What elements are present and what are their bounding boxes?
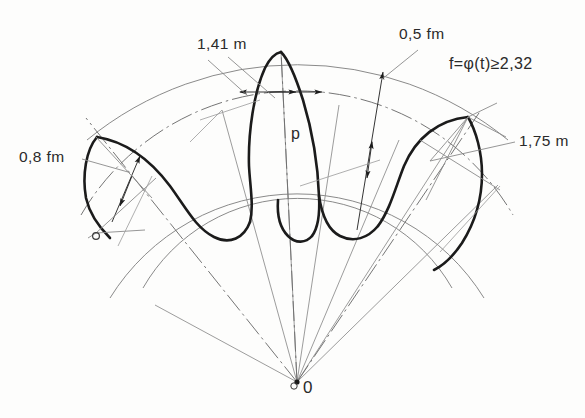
leader-root-relief xyxy=(82,137,156,238)
label-tip-relief: 0,5 fm xyxy=(399,25,444,43)
centre-point-ring xyxy=(291,383,297,389)
label-centre: 0 xyxy=(303,378,313,398)
label-contact-ratio-formula: f=φ(t)≥2,32 xyxy=(449,55,533,73)
radial-lines xyxy=(155,52,498,382)
leader-tooth-thickness-2 xyxy=(208,60,248,96)
drawing-canvas: 1,41 m 0,5 fm 0,8 fm 1,75 m f=φ(t)≥2,32 … xyxy=(0,0,585,418)
right-tooth-centreline xyxy=(297,110,481,382)
dim-root-relief xyxy=(112,156,140,222)
centre-point xyxy=(294,379,299,384)
second-root-bottom xyxy=(319,196,378,239)
leader-tooth-height xyxy=(420,103,515,200)
label-root-relief: 0,8 fm xyxy=(19,148,64,166)
second-root-fillet xyxy=(278,200,312,242)
leader-tip-relief xyxy=(381,50,418,80)
left-tooth-flank-inner xyxy=(97,137,250,240)
centre-tooth-right-flank xyxy=(281,52,319,236)
left-tooth-centreline xyxy=(86,118,297,382)
left-tooth-flank-outer xyxy=(84,137,110,238)
label-tooth-thickness: 1,41 m xyxy=(197,35,247,53)
tooth-profile xyxy=(84,52,482,270)
outer-root-arc xyxy=(110,194,484,298)
right-tooth-left-flank xyxy=(378,117,468,226)
label-pitch: p xyxy=(291,125,300,143)
root-relief-marker xyxy=(93,233,100,240)
label-tooth-height: 1,75 m xyxy=(519,132,569,150)
pitch-circle-arc xyxy=(81,91,513,215)
